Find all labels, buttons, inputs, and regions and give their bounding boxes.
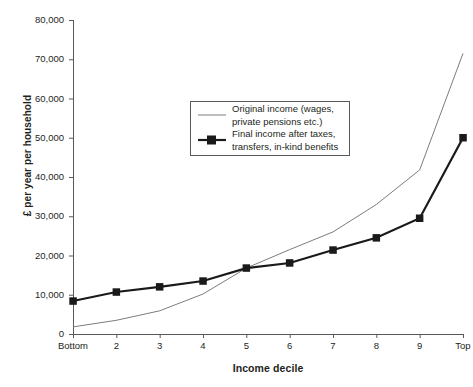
data-point-marker (459, 134, 467, 142)
series-line-original-income (73, 53, 463, 327)
legend-swatch-marker-line (197, 134, 227, 146)
data-point-marker (243, 264, 251, 272)
legend-label-original-income: Original income (wages,private pensions … (232, 103, 334, 128)
y-tick-label: 40,000 (8, 172, 64, 182)
data-point-marker (286, 259, 294, 267)
plot-area (0, 0, 473, 387)
axes (73, 20, 463, 335)
legend-label-line2: private pensions etc.) (232, 116, 322, 127)
y-tick-label: 80,000 (8, 15, 64, 25)
legend-item-original-income: Original income (wages,private pensions … (191, 104, 349, 130)
y-tick-label: 50,000 (8, 133, 64, 143)
legend: Original income (wages,private pensions … (190, 101, 350, 156)
y-tick-label: 10,000 (8, 290, 64, 300)
data-point-marker (156, 283, 164, 291)
legend-label-line1: Final income after taxes, (232, 128, 336, 139)
series-markers-final-income (69, 134, 467, 305)
y-axis-ticks (69, 21, 73, 335)
chart-container: £ per year per household Income decile 0… (0, 0, 473, 387)
data-point-marker (416, 215, 424, 223)
y-tick-label: 60,000 (8, 94, 64, 104)
legend-label-line2: transfers, in-kind benefits (232, 141, 338, 152)
data-point-marker (113, 288, 121, 296)
x-tick-label: Top (433, 341, 473, 351)
data-point-marker (69, 297, 77, 305)
series-line-final-income (73, 138, 463, 301)
y-tick-label: 0 (8, 329, 64, 339)
legend-item-final-income: Final income after taxes,transfers, in-k… (191, 129, 349, 155)
legend-swatch-thin-line (197, 109, 227, 121)
y-tick-label: 30,000 (8, 211, 64, 221)
legend-label-line1: Original income (wages, (232, 103, 334, 114)
data-point-marker (199, 277, 207, 285)
x-axis-title: Income decile (73, 362, 463, 374)
data-point-marker (329, 246, 337, 254)
legend-label-final-income: Final income after taxes,transfers, in-k… (232, 128, 338, 153)
data-point-marker (373, 234, 381, 242)
y-tick-label: 70,000 (8, 54, 64, 64)
y-tick-label: 20,000 (8, 251, 64, 261)
